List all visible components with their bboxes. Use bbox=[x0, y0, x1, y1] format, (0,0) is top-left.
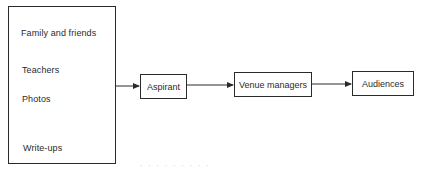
figure-caption: · · · · · · · · · bbox=[140, 162, 211, 169]
connector-arrows bbox=[0, 0, 422, 171]
